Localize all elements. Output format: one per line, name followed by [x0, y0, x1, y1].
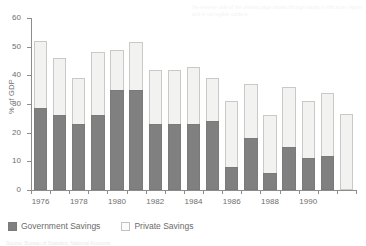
bar-1978 — [72, 78, 85, 190]
bar-1977 — [53, 58, 66, 190]
x-tick — [260, 190, 261, 194]
x-tick — [127, 190, 128, 194]
x-tick-label: 1980 — [108, 197, 126, 206]
x-tick — [107, 190, 108, 194]
bar-1976 — [34, 41, 47, 190]
bar-segment-government — [53, 115, 66, 190]
bar-1986 — [225, 101, 238, 190]
x-tick-label: 1984 — [185, 197, 203, 206]
bar-1985 — [206, 78, 219, 190]
x-tick — [318, 190, 319, 194]
x-tick — [241, 190, 242, 194]
bar-segment-government — [168, 124, 181, 190]
x-tick — [222, 190, 223, 194]
bar-1992 — [340, 114, 353, 190]
bar-1991 — [321, 93, 334, 190]
bar-segment-government — [72, 124, 85, 190]
bar-segment-government — [149, 124, 162, 190]
y-tick-label: 10 — [12, 156, 21, 165]
y-tick: 50 — [27, 47, 31, 48]
x-tick-label: 1982 — [146, 197, 164, 206]
bar-1988 — [263, 115, 276, 190]
x-tick — [299, 190, 300, 194]
y-tick-label: 20 — [12, 128, 21, 137]
legend-item-government-savings: Government Savings — [8, 221, 100, 231]
chart-legend: Government Savings Private Savings — [8, 221, 207, 231]
private-swatch-icon — [121, 222, 130, 231]
bar-segment-government — [206, 121, 219, 190]
bar-1990 — [302, 101, 315, 190]
x-tick — [69, 190, 70, 194]
bar-segment-government — [244, 138, 257, 190]
bar-1979 — [91, 52, 104, 190]
x-tick — [146, 190, 147, 194]
x-tick-label: 1986 — [223, 197, 241, 206]
page-bleed-through: the reverse side of the printed page sho… — [192, 4, 362, 18]
bar-segment-government — [321, 156, 334, 190]
bar-segment-government — [263, 173, 276, 190]
x-tick-label: 1988 — [261, 197, 279, 206]
bar-segment-government — [129, 90, 142, 190]
x-tick — [165, 190, 166, 194]
legend-label-private: Private Savings — [134, 221, 193, 231]
bar-segment-government — [187, 124, 200, 190]
chart-container: the reverse side of the printed page sho… — [0, 0, 366, 246]
bar-1983 — [168, 70, 181, 190]
y-tick: 20 — [27, 133, 31, 134]
y-tick-label: 40 — [12, 70, 21, 79]
x-tick — [203, 190, 204, 194]
source-note: Source: Bureau of Statistics, National A… — [6, 240, 111, 246]
bar-segment-government — [91, 115, 104, 190]
bar-segment-government — [110, 90, 123, 190]
bar-segment-government — [225, 167, 238, 190]
plot-area: 0102030405060 19761978198019821984198619… — [31, 18, 356, 190]
x-tick — [31, 190, 32, 194]
gov-swatch-icon — [8, 222, 17, 231]
legend-item-private-savings: Private Savings — [121, 221, 193, 231]
y-tick: 40 — [27, 75, 31, 76]
y-tick: 30 — [27, 104, 31, 105]
bar-segment-government — [282, 147, 295, 190]
x-tick-label: 1976 — [32, 197, 50, 206]
bar-1984 — [187, 67, 200, 190]
x-tick — [356, 190, 357, 194]
bar-1980 — [110, 50, 123, 190]
bar-segment-government — [34, 108, 47, 190]
y-tick-label: 50 — [12, 42, 21, 51]
bar-segment-government — [302, 158, 315, 190]
bar-segment-private — [340, 114, 353, 190]
x-tick — [184, 190, 185, 194]
legend-label-government: Government Savings — [21, 221, 100, 231]
y-tick-label: 30 — [12, 99, 21, 108]
x-tick — [337, 190, 338, 194]
x-tick-label: 1990 — [299, 197, 317, 206]
x-tick — [280, 190, 281, 194]
bar-1982 — [149, 70, 162, 190]
bar-1981 — [129, 42, 142, 190]
x-axis-line — [31, 190, 356, 191]
x-tick — [50, 190, 51, 194]
y-tick-label: 0 — [17, 185, 21, 194]
y-tick: 60 — [27, 18, 31, 19]
x-tick — [88, 190, 89, 194]
bar-1989 — [282, 87, 295, 190]
bar-1987 — [244, 84, 257, 190]
y-axis-line — [31, 18, 32, 190]
y-tick-label: 60 — [12, 13, 21, 22]
x-tick-label: 1978 — [70, 197, 88, 206]
y-tick: 10 — [27, 161, 31, 162]
